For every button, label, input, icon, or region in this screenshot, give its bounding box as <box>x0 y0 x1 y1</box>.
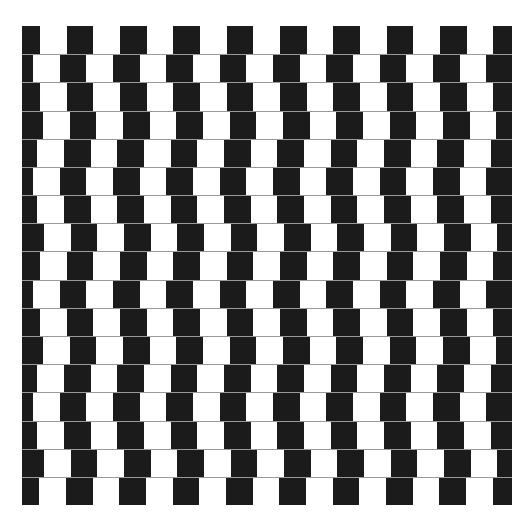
black-tile <box>380 392 407 421</box>
black-tile <box>173 477 200 505</box>
black-tile <box>277 139 304 167</box>
black-tile <box>491 364 512 392</box>
black-tile <box>220 280 247 308</box>
black-tile <box>380 280 407 308</box>
black-tile <box>440 26 467 54</box>
black-tile <box>331 364 358 392</box>
black-tile <box>336 336 363 364</box>
black-tile <box>64 195 91 223</box>
black-tile <box>493 308 512 336</box>
black-tile <box>226 477 253 505</box>
black-tile <box>171 139 198 167</box>
black-tile <box>227 308 254 336</box>
black-tile <box>384 195 411 223</box>
mortar-line <box>22 280 512 281</box>
black-tile <box>386 477 413 505</box>
black-tile <box>230 111 257 139</box>
black-tile <box>486 392 512 421</box>
black-tile <box>384 139 411 167</box>
mortar-line <box>22 392 512 393</box>
black-tile <box>273 280 300 308</box>
black-tile <box>273 54 300 82</box>
black-tile <box>64 139 91 167</box>
black-tile <box>70 111 97 139</box>
black-tile <box>120 308 147 336</box>
tile-row <box>22 223 512 251</box>
mortar-line <box>22 308 512 309</box>
black-tile <box>117 139 144 167</box>
black-tile <box>123 111 150 139</box>
black-tile <box>67 251 94 280</box>
black-tile <box>331 139 358 167</box>
black-tile <box>227 251 254 280</box>
black-tile <box>280 82 307 111</box>
black-tile <box>224 364 251 392</box>
black-tile <box>67 308 94 336</box>
black-tile <box>166 392 193 421</box>
black-tile <box>64 421 91 449</box>
black-tile <box>171 421 198 449</box>
black-tile <box>22 251 40 280</box>
black-tile <box>124 449 151 477</box>
black-tile <box>117 195 144 223</box>
black-tile <box>390 111 417 139</box>
black-tile <box>22 195 37 223</box>
black-tile <box>380 167 407 195</box>
black-tile <box>433 392 460 421</box>
tile-row <box>22 195 512 223</box>
mortar-line <box>22 82 512 83</box>
mortar-line <box>22 449 512 450</box>
mortar-line <box>22 195 512 196</box>
black-tile <box>117 364 144 392</box>
black-tile <box>173 308 200 336</box>
black-tile <box>337 223 364 251</box>
black-tile <box>113 280 140 308</box>
black-tile <box>439 477 466 505</box>
black-tile <box>224 421 251 449</box>
black-tile <box>333 82 360 111</box>
black-tile <box>326 280 353 308</box>
black-tile <box>283 336 310 364</box>
black-tile <box>493 477 512 505</box>
black-tile <box>67 82 94 111</box>
black-tile <box>171 195 198 223</box>
black-tile <box>22 26 40 54</box>
mortar-line <box>22 364 512 365</box>
black-tile <box>22 336 43 364</box>
black-tile <box>437 195 464 223</box>
tile-row <box>22 421 512 449</box>
black-tile <box>387 82 414 111</box>
tile-row <box>22 82 512 111</box>
black-tile <box>220 167 247 195</box>
black-tile <box>120 82 147 111</box>
black-tile <box>437 364 464 392</box>
black-tile <box>486 280 512 308</box>
black-tile <box>273 167 300 195</box>
black-tile <box>440 251 467 280</box>
black-tile <box>443 336 470 364</box>
black-tile <box>176 111 203 139</box>
black-tile <box>70 336 97 364</box>
black-tile <box>283 111 310 139</box>
black-tile <box>166 54 193 82</box>
black-tile <box>66 477 93 505</box>
black-tile <box>60 167 87 195</box>
black-tile <box>227 26 254 54</box>
black-tile <box>60 280 87 308</box>
mortar-line <box>22 111 512 112</box>
black-tile <box>496 111 512 139</box>
black-tile <box>380 54 407 82</box>
black-tile <box>173 26 200 54</box>
black-tile <box>443 111 470 139</box>
black-tile <box>280 308 307 336</box>
black-tile <box>496 336 512 364</box>
black-tile <box>331 421 358 449</box>
black-tile <box>120 26 147 54</box>
black-tile <box>64 364 91 392</box>
black-tile <box>391 449 418 477</box>
black-tile <box>326 392 353 421</box>
black-tile <box>280 26 307 54</box>
cafe-wall-grid <box>22 26 512 505</box>
black-tile <box>493 82 512 111</box>
black-tile <box>444 449 471 477</box>
